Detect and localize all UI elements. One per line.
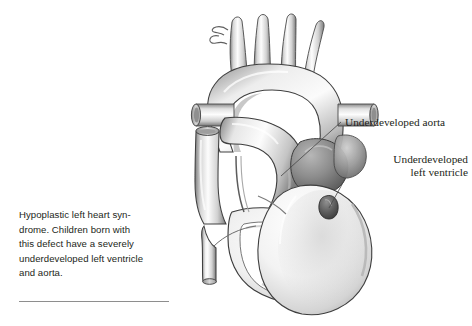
underdeveloped-left-ventricle bbox=[319, 195, 338, 219]
figure-caption: Hypoplastic left heart syn- drome. Child… bbox=[19, 208, 177, 281]
callout-label-aorta: Underdeveloped aorta bbox=[345, 116, 445, 129]
callout-label-left-ventricle: Underdeveloped left ventricle bbox=[348, 153, 468, 180]
caption-divider bbox=[19, 301, 169, 302]
figure-canvas: Underdeveloped aorta Underdeveloped left… bbox=[0, 0, 472, 326]
